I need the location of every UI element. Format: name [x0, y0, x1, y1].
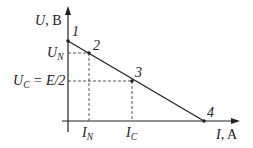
x-axis-title: I, A	[215, 127, 238, 142]
y-axis-title: U, B	[35, 13, 61, 28]
x-axis-arrow-icon	[231, 118, 240, 124]
x-tick-ic: IC	[125, 125, 138, 142]
point-2	[87, 51, 91, 55]
point-3-label: 3	[134, 65, 142, 80]
point-1-label: 1	[72, 24, 79, 39]
y-axis-arrow-icon	[65, 6, 71, 15]
point-1	[66, 39, 70, 43]
uv-characteristic-diagram: 1 2 3 4 U, B I, A UN UC = E/2 IN IC	[0, 0, 253, 148]
point-4	[202, 119, 206, 123]
point-3	[130, 79, 134, 83]
point-4-label: 4	[207, 105, 214, 120]
point-2-label: 2	[93, 38, 100, 53]
y-tick-un: UN	[47, 45, 64, 62]
y-tick-uc: UC = E/2	[13, 73, 65, 90]
x-tick-in: IN	[81, 125, 94, 142]
